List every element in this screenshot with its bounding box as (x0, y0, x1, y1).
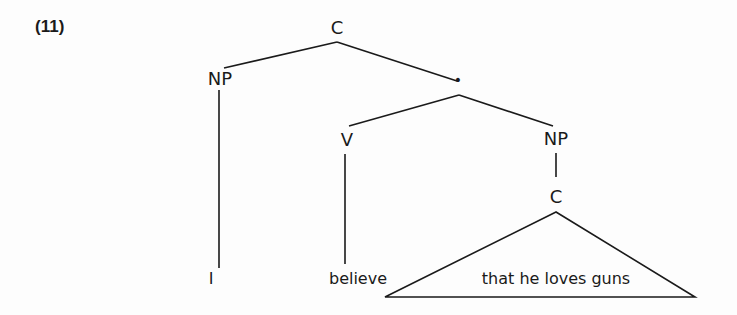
edge-c-np (224, 42, 337, 68)
node-verb-v: V (341, 130, 353, 150)
tree-edges (0, 0, 737, 315)
edge-bar-np (459, 95, 553, 126)
leaf-clause: that he loves guns (482, 269, 630, 289)
node-root-c: C (331, 18, 344, 38)
edge-bar-v (349, 95, 459, 126)
leaf-believe: believe (329, 269, 387, 289)
node-subject-np: NP (208, 69, 232, 89)
node-intermediate: • (454, 70, 462, 90)
leaf-i: I (209, 269, 214, 289)
node-object-c: C (550, 187, 563, 207)
node-object-np: NP (544, 129, 568, 149)
edge-c-bar (337, 42, 457, 81)
